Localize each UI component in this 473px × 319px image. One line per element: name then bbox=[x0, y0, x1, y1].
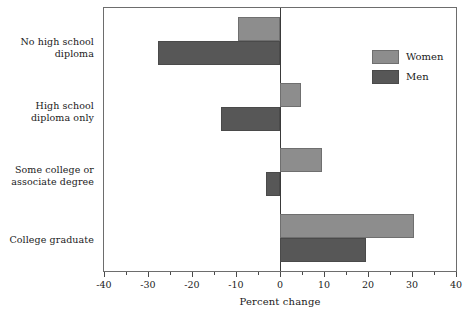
x-tick-mark-10 bbox=[324, 272, 325, 277]
category-label-line1: Some college or bbox=[0, 164, 94, 176]
x-tick-mark-minor bbox=[434, 272, 435, 275]
bar-men-high-school-diploma-only bbox=[221, 107, 280, 131]
x-tick-label-40: 40 bbox=[436, 279, 473, 290]
category-label-line1: No high school bbox=[0, 36, 94, 48]
x-tick-label-neg20: -20 bbox=[172, 279, 212, 290]
category-label-line2: diploma only bbox=[0, 112, 94, 124]
x-tick-mark-minor bbox=[302, 272, 303, 275]
bar-women-no-high-school-diploma bbox=[238, 17, 280, 41]
x-tick-mark-neg20 bbox=[192, 272, 193, 277]
x-tick-mark-minor bbox=[390, 272, 391, 275]
legend-label-women: Women bbox=[406, 51, 443, 62]
x-tick-mark-minor bbox=[258, 272, 259, 275]
x-tick-mark-minor bbox=[346, 272, 347, 275]
bar-women-some-college-or-associate-degree bbox=[280, 148, 322, 172]
x-tick-mark-neg40 bbox=[104, 272, 105, 277]
category-label-high-school-diploma-only: High school diploma only bbox=[0, 100, 94, 124]
bar-chart-figure: No high school diploma High school diplo… bbox=[0, 0, 473, 319]
x-tick-mark-neg30 bbox=[148, 272, 149, 277]
bar-women-college-graduate bbox=[280, 214, 414, 238]
category-label-line2: associate degree bbox=[0, 176, 94, 188]
legend-label-men: Men bbox=[406, 71, 429, 82]
x-tick-mark-minor bbox=[170, 272, 171, 275]
x-tick-mark-minor bbox=[214, 272, 215, 275]
x-axis-title: Percent change bbox=[103, 296, 457, 307]
plot-frame bbox=[103, 7, 457, 272]
bar-men-some-college-or-associate-degree bbox=[266, 172, 280, 196]
x-tick-label-20: 20 bbox=[348, 279, 388, 290]
category-label-some-college-or-associate-degree: Some college or associate degree bbox=[0, 164, 94, 188]
x-tick-mark-neg10 bbox=[236, 272, 237, 277]
category-label-line1: High school bbox=[0, 100, 94, 112]
bar-men-college-graduate bbox=[280, 238, 366, 262]
x-tick-label-10: 10 bbox=[304, 279, 344, 290]
category-label-no-high-school-diploma: No high school diploma bbox=[0, 36, 94, 60]
x-tick-mark-40 bbox=[456, 272, 457, 277]
x-tick-mark-minor bbox=[126, 272, 127, 275]
category-label-line2: diploma bbox=[0, 48, 94, 60]
x-tick-label-neg10: -10 bbox=[216, 279, 256, 290]
bar-men-no-high-school-diploma bbox=[158, 41, 280, 65]
x-tick-mark-30 bbox=[412, 272, 413, 277]
x-tick-label-30: 30 bbox=[392, 279, 432, 290]
x-tick-label-0: 0 bbox=[260, 279, 300, 290]
category-label-line1: College graduate bbox=[0, 234, 94, 246]
bar-women-high-school-diploma-only bbox=[280, 83, 301, 107]
legend-item-women: Women bbox=[372, 48, 443, 65]
x-tick-mark-0 bbox=[280, 272, 281, 277]
x-tick-label-neg40: -40 bbox=[84, 279, 124, 290]
x-tick-label-neg30: -30 bbox=[128, 279, 168, 290]
legend-swatch-women-icon bbox=[372, 50, 399, 64]
legend-item-men: Men bbox=[372, 68, 443, 85]
x-tick-mark-20 bbox=[368, 272, 369, 277]
legend-swatch-men-icon bbox=[372, 70, 399, 84]
legend: Women Men bbox=[372, 48, 443, 88]
category-label-college-graduate: College graduate bbox=[0, 234, 94, 246]
